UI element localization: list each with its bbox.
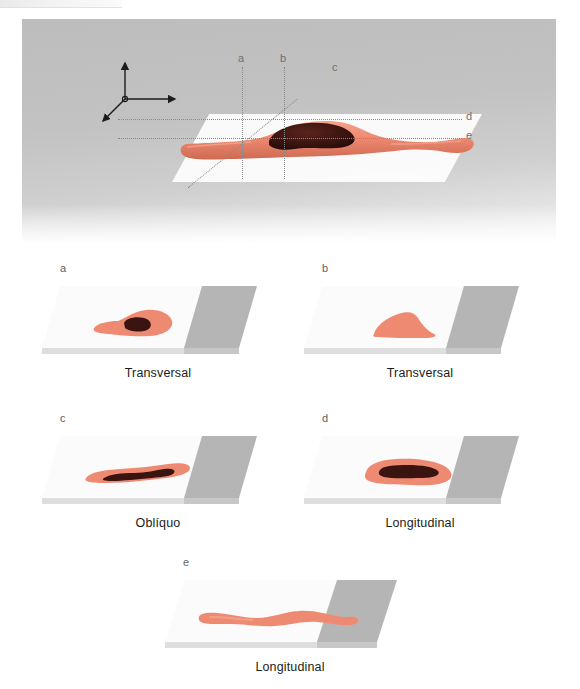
figure-root: a b c d e a Transversal b Transversal	[0, 0, 580, 689]
section-letter-e: e	[183, 556, 189, 568]
section-panel-a: a Transversal	[42, 262, 274, 392]
cut-label-b: b	[280, 52, 286, 64]
cut-line-d	[118, 119, 462, 120]
organ-3d-model	[177, 111, 477, 173]
cut-label-d: d	[466, 110, 472, 122]
section-letter-c: c	[60, 412, 66, 424]
cut-line-e	[118, 138, 462, 139]
section-letter-a: a	[60, 262, 66, 274]
section-caption-d: Longitudinal	[304, 516, 536, 530]
section-slab-e	[165, 572, 415, 658]
section-slab-b	[304, 278, 536, 364]
section-slab-a	[42, 278, 274, 364]
scan-artifact-strip	[0, 0, 122, 8]
section-slab-d	[304, 428, 536, 514]
section-panel-c: c Oblíquo	[42, 412, 274, 542]
section-panel-b: b Transversal	[304, 262, 536, 392]
cut-label-c: c	[332, 61, 338, 73]
overview-panel-fade	[22, 205, 556, 247]
section-letter-d: d	[322, 412, 328, 424]
section-caption-b: Transversal	[304, 366, 536, 380]
cut-label-e: e	[466, 129, 472, 141]
section-panel-e: e Longitudinal	[165, 556, 415, 686]
section-caption-a: Transversal	[42, 366, 274, 380]
section-caption-c: Oblíquo	[42, 516, 274, 530]
section-slab-c	[42, 428, 274, 514]
cut-line-a	[242, 67, 243, 179]
cut-label-a: a	[238, 52, 244, 64]
coordinate-axes-icon	[97, 57, 187, 127]
section-panel-d: d Longitudinal	[304, 412, 536, 542]
section-caption-e: Longitudinal	[165, 660, 415, 674]
section-letter-b: b	[322, 262, 328, 274]
cut-line-b	[284, 67, 285, 179]
